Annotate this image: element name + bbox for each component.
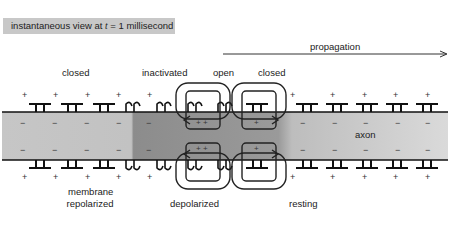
svg-text:+: + [393,172,398,182]
svg-text:+: + [393,90,398,100]
svg-text:−: − [20,118,25,128]
svg-text:+: + [147,172,152,182]
svg-text:+: + [116,90,121,100]
svg-text:−: − [116,118,121,128]
svg-text:+: + [147,90,152,100]
svg-text:+: + [53,172,58,182]
svg-text:−: − [395,118,400,128]
svg-text:−: − [52,118,57,128]
label-repolarized-2: repolarized [64,198,116,209]
svg-text:+: + [85,90,90,100]
label-open: open [213,67,234,78]
svg-text:+: + [22,172,27,182]
svg-text:−: − [425,145,430,155]
axon-cytoplasm [2,112,448,160]
svg-text:+: + [254,118,259,127]
svg-text:+: + [425,172,430,182]
svg-text:+: + [290,172,295,182]
label-propagation: propagation [310,41,360,52]
svg-text:−: − [300,118,305,128]
label-closed-right: closed [258,67,285,78]
label-repolarized-1: membrane [68,186,112,197]
svg-text:+: + [85,172,90,182]
label-axon: axon [355,129,376,140]
svg-text:+: + [22,90,27,100]
svg-text:−: − [425,118,430,128]
svg-text:+ +: + + [196,144,208,153]
svg-text:+: + [330,90,335,100]
svg-text:−: − [363,118,368,128]
svg-text:−: − [395,145,400,155]
label-closed-left: closed [62,67,89,78]
svg-text:+: + [362,172,367,182]
svg-text:−: − [52,145,57,155]
svg-text:−: − [84,118,89,128]
svg-text:+: + [290,90,295,100]
svg-text:+: + [53,90,58,100]
svg-text:−: − [146,145,151,155]
svg-text:+: + [254,144,259,153]
label-inactivated: inactivated [142,67,187,78]
svg-text:+: + [116,172,121,182]
label-depolarized: depolarized [170,198,219,209]
svg-text:−: − [146,118,151,128]
svg-text:−: − [332,118,337,128]
svg-text:−: − [84,145,89,155]
svg-text:+: + [362,90,367,100]
svg-text:−: − [332,145,337,155]
label-resting: resting [289,198,318,209]
svg-text:−: − [300,145,305,155]
svg-text:+: + [330,172,335,182]
svg-text:+: + [425,90,430,100]
svg-text:−: − [20,145,25,155]
svg-text:−: − [116,145,121,155]
svg-text:−: − [363,145,368,155]
svg-text:+ +: + + [196,118,208,127]
